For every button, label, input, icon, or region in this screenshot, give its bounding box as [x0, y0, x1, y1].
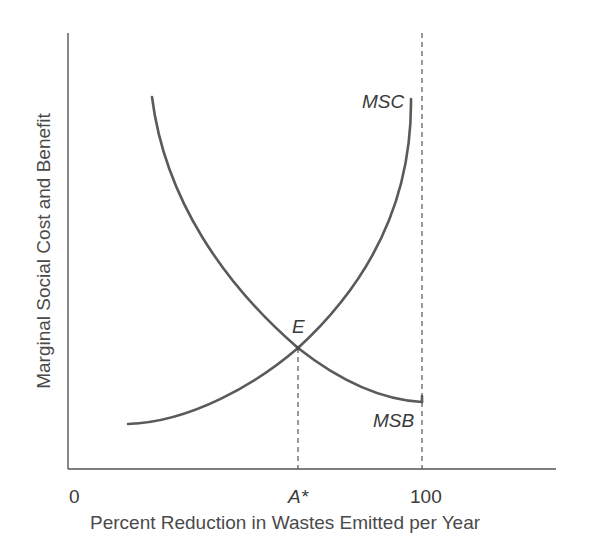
- chart-canvas: [0, 0, 591, 549]
- msc-curve: [128, 99, 411, 424]
- equilibrium-label: E: [292, 316, 305, 338]
- x-tick-hundred: 100: [410, 486, 442, 508]
- x-axis-title: Percent Reduction in Wastes Emitted per …: [90, 512, 480, 534]
- x-tick-zero: 0: [69, 486, 80, 508]
- msb-label: MSB: [373, 410, 414, 432]
- equilibrium-point: [296, 346, 300, 350]
- x-tick-astar: A*: [288, 486, 308, 508]
- y-axis-title: Marginal Social Cost and Benefit: [33, 113, 55, 389]
- msc-label: MSC: [362, 91, 404, 113]
